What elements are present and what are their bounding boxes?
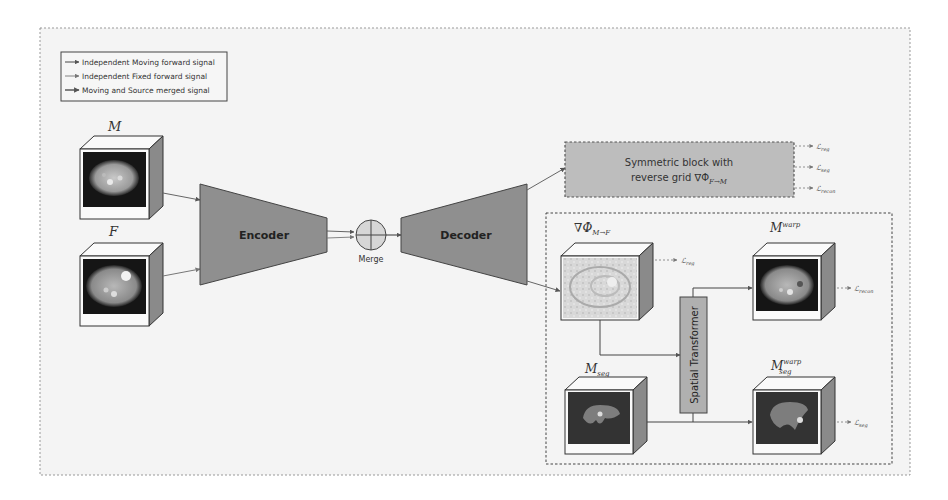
architecture-diagram: Independent Moving forward signal Indepe… <box>0 0 948 500</box>
spatial-transformer: Spatial Transformer <box>680 297 707 413</box>
fixed-ct-body <box>86 265 142 307</box>
cube-side <box>821 243 835 320</box>
legend-label: Independent Fixed forward signal <box>82 72 207 81</box>
merge-label: Merge <box>359 255 384 264</box>
legend-label: Independent Moving forward signal <box>82 58 215 67</box>
symmetric-block-line1: Symmetric block with <box>625 157 733 168</box>
cube-side <box>821 377 835 454</box>
legend-item-moving: Independent Moving forward signal <box>65 58 215 67</box>
warped-ct-body <box>760 265 814 305</box>
cube-side <box>149 243 163 326</box>
moving-label: M <box>107 119 122 134</box>
legend-item-merged: Moving and Source merged signal <box>65 86 210 95</box>
cube-side <box>633 377 647 454</box>
fixed-label: F <box>108 224 119 239</box>
decoder-label: Decoder <box>440 229 492 242</box>
symmetric-block-box <box>565 142 794 197</box>
legend: Independent Moving forward signal Indepe… <box>61 52 227 101</box>
cube-top <box>561 243 653 256</box>
legend-item-fixed: Independent Fixed forward signal <box>65 72 207 81</box>
merge-node: Merge <box>356 220 386 264</box>
cube-side <box>149 136 163 219</box>
cube-side <box>639 243 653 320</box>
legend-label: Moving and Source merged signal <box>82 86 210 95</box>
encoder-label: Encoder <box>239 229 290 242</box>
moving-ct-body <box>89 160 139 196</box>
spatial-transformer-label: Spatial Transformer <box>689 305 700 404</box>
